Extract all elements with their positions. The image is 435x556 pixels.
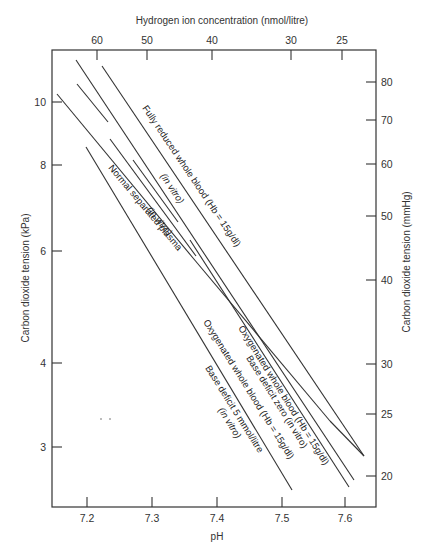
stray-dot: [109, 418, 111, 420]
right-tick-label: 70: [381, 114, 393, 126]
top-axis: 60 50 40 30 25: [91, 34, 348, 60]
left-tick-label: 6: [40, 245, 46, 257]
left-axis-title: Carbon dioxide tension (kPa): [20, 214, 31, 343]
bottom-tick-label: 7.4: [210, 512, 225, 524]
right-tick-label: 50: [381, 210, 393, 222]
right-axis-title: Carbon dioxide tension (mmHg): [401, 191, 412, 332]
right-tick-label: 80: [381, 76, 393, 88]
right-tick-label: 25: [381, 408, 393, 420]
bottom-tick-label: 7.2: [80, 512, 95, 524]
bottom-axis: 7.2 7.3 7.4 7.5 7.6: [80, 497, 353, 524]
left-tick-label: 10: [34, 96, 46, 108]
curve-oxygenated-bd-zero-upper: [76, 60, 354, 480]
bottom-tick-label: 7.6: [338, 512, 353, 524]
left-tick-label: 4: [40, 357, 46, 369]
left-axis: 10 8 6 4 3: [34, 96, 62, 453]
left-tick-label: 3: [40, 441, 46, 453]
bottom-tick-label: 7.5: [275, 512, 290, 524]
top-tick-label: 25: [336, 34, 348, 46]
top-tick-label: 30: [285, 34, 297, 46]
stray-dot: [100, 418, 102, 420]
top-tick-label: 60: [91, 34, 103, 46]
bottom-tick-label: 7.3: [145, 512, 160, 524]
top-tick-label: 40: [206, 34, 218, 46]
bottom-axis-title: pH: [211, 531, 224, 542]
top-tick-label: 50: [141, 34, 153, 46]
right-tick-label: 30: [381, 358, 393, 370]
right-axis: 80 70 60 50 40 30 25 20: [366, 76, 393, 482]
right-tick-label: 20: [381, 470, 393, 482]
right-tick-label: 40: [381, 274, 393, 286]
top-axis-title: Hydrogen ion concentration (nmol/litre): [136, 15, 308, 26]
left-tick-label: 8: [40, 159, 46, 171]
nomogram-chart: Hydrogen ion concentration (nmol/litre) …: [0, 0, 435, 556]
curve-normal-plasma: [57, 94, 364, 456]
right-tick-label: 60: [381, 158, 393, 170]
curve-oxygenated-bd-five: [86, 147, 292, 490]
plot-frame: [52, 50, 376, 507]
